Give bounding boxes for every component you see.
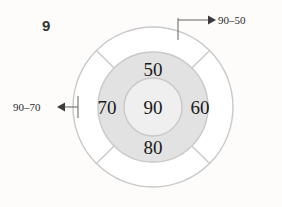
wheel-cell-center: 90 xyxy=(144,98,163,117)
wheel-cell-bottom: 80 xyxy=(144,138,163,157)
wheel-cell-left: 70 xyxy=(98,98,117,117)
arrowhead-left-icon xyxy=(57,103,65,112)
annotation-label-left: 90‒70 xyxy=(13,102,41,113)
page-title: 9 xyxy=(42,18,50,33)
wheel-cell-top: 50 xyxy=(144,60,163,79)
wheel-cell-right: 60 xyxy=(191,98,210,117)
annotation-label-top-right: 90‒50 xyxy=(218,15,246,26)
arrowhead-right-icon xyxy=(208,16,216,25)
worksheet-canvas: 9 90 50 60 80 70 90‒50 90‒70 xyxy=(0,0,282,207)
